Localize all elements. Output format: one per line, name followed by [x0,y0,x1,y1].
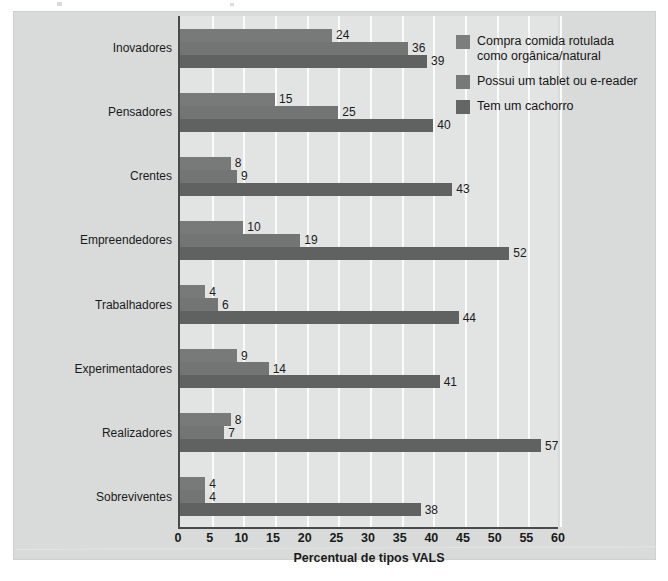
bar-row: 6 [180,298,558,311]
bar-value-label: 9 [237,169,248,183]
legend-item: Tem um cachorro [456,99,646,114]
bar-value-label: 38 [421,503,438,517]
bar-row: 8 [180,413,558,426]
legend-swatch [456,35,470,49]
x-tick-label: 55 [519,531,533,545]
bar-value-label: 19 [300,233,317,247]
bar-group: Experimentadores91441 [180,349,558,388]
bar [180,490,205,503]
bar-group: Empreendedores101952 [180,221,558,260]
x-tick-label: 30 [361,531,375,545]
bar-value-label: 4 [205,477,216,491]
scan-artifact [57,2,62,6]
bar [180,349,237,362]
bar-row: 9 [180,349,558,362]
x-axis-title: Percentual de tipos VALS [178,551,560,565]
bar-value-label: 43 [452,182,469,196]
category-label: Experimentadores [75,362,172,376]
x-tick-label: 5 [206,531,213,545]
bar-row: 4 [180,477,558,490]
bar-value-label: 57 [541,439,558,453]
bar [180,375,440,388]
category-label: Realizadores [102,426,172,440]
legend-swatch [456,75,470,89]
legend-item: Possui um tablet ou e-reader [456,74,646,89]
bar-value-label: 25 [338,105,355,119]
scan-artifact [230,3,234,6]
x-tick-label: 10 [234,531,248,545]
bar-value-label: 14 [269,362,286,376]
bar-value-label: 8 [231,156,242,170]
bar-row: 4 [180,285,558,298]
bar [180,93,275,106]
bar-value-label: 4 [205,285,216,299]
bar [180,42,408,55]
bar [180,285,205,298]
bar-row: 38 [180,503,558,516]
bar-row: 43 [180,183,558,196]
bar-row: 19 [180,234,558,247]
bar-value-label: 15 [275,92,292,106]
bar-row: 44 [180,311,558,324]
bar-row: 9 [180,170,558,183]
legend-swatch [456,100,470,114]
bar-value-label: 41 [440,375,457,389]
bar-value-label: 9 [237,349,248,363]
bar [180,362,269,375]
bar-group: Trabalhadores4644 [180,285,558,324]
category-label: Sobreviventes [96,490,172,504]
bar [180,298,218,311]
bar-value-label: 44 [459,311,476,325]
x-axis-tick-labels: 051015202530354045505560 [178,531,560,551]
bar [180,29,332,42]
bar [180,247,509,260]
bar [180,413,231,426]
bar-value-label: 39 [427,54,444,68]
bar [180,106,338,119]
bar [180,170,237,183]
x-tick-label: 45 [456,531,470,545]
category-label: Empreendedores [80,233,172,247]
x-tick-label: 15 [266,531,280,545]
bar-row: 57 [180,439,558,452]
bar-value-label: 8 [231,413,242,427]
bar [180,55,427,68]
bar [180,119,433,132]
bar-value-label: 36 [408,41,425,55]
bar [180,311,459,324]
bar [180,439,541,452]
bar [180,183,452,196]
bar-row: 4 [180,490,558,503]
x-tick-label: 50 [488,531,502,545]
bar-value-label: 10 [243,220,260,234]
bar-value-label: 24 [332,28,349,42]
x-tick-label: 0 [175,531,182,545]
bar-group: Sobreviventes4438 [180,477,558,516]
bar-row: 41 [180,375,558,388]
bar-row: 52 [180,247,558,260]
legend-label: Compra comida rotulada como orgânica/nat… [477,34,646,64]
bar-value-label: 52 [509,246,526,260]
bar-value-label: 4 [205,490,216,504]
x-tick-label: 40 [424,531,438,545]
bar [180,157,231,170]
category-label: Pensadores [108,105,172,119]
bar [180,221,243,234]
bar-row: 14 [180,362,558,375]
bar [180,234,300,247]
legend-item: Compra comida rotulada como orgânica/nat… [456,34,646,64]
bar-value-label: 7 [224,426,235,440]
bar-value-label: 40 [433,118,450,132]
bar [180,503,421,516]
category-label: Crentes [130,169,172,183]
bar [180,426,224,439]
bar-row: 7 [180,426,558,439]
category-label: Inovadores [113,41,172,55]
x-tick-label: 60 [551,531,565,545]
bar-row: 8 [180,157,558,170]
x-tick-label: 35 [393,531,407,545]
legend-label: Possui um tablet ou e-reader [477,74,638,89]
chart-legend: Compra comida rotulada como orgânica/nat… [456,34,646,124]
legend-label: Tem um cachorro [477,99,574,114]
x-tick-label: 25 [329,531,343,545]
